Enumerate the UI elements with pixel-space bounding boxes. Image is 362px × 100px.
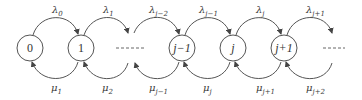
rate-label-mu-2: μ2 [102, 82, 114, 96]
state-node-0: 0 [17, 35, 43, 61]
backward-arc-1 [32, 62, 78, 79]
forward-arc-5 [287, 17, 332, 35]
backward-arc-5 [235, 62, 281, 79]
rate-label-mu-j+1: μj+1 [256, 82, 275, 96]
backward-arc-4 [184, 62, 230, 79]
backward-arc-6 [286, 62, 332, 79]
state-node-1: 1 [68, 35, 94, 61]
rate-label-mu-j: μj [203, 82, 213, 96]
backward-arc-3 [135, 62, 179, 79]
state-label: j−1 [171, 41, 190, 55]
rate-label-lambda-j: λj [255, 4, 265, 18]
rate-label-mu-1: μ1 [51, 82, 62, 96]
rate-label-lambda-j-1: λj−1 [198, 4, 218, 18]
rate-label-mu-j-1: μj−1 [149, 82, 168, 96]
forward-arc-3 [185, 18, 230, 35]
state-node-j: j [220, 35, 246, 61]
rate-label-lambda-j+1: λj+1 [305, 4, 325, 18]
state-node-j-plus-1: j+1 [271, 35, 297, 61]
backward-arc-2 [84, 62, 128, 79]
forward-arc-0 [33, 18, 78, 35]
forward-arc-4 [236, 18, 281, 35]
forward-arc-2 [134, 17, 179, 34]
rate-label-lambda-0: λ0 [51, 4, 63, 18]
rate-label-mu-j+2: μj+2 [306, 82, 326, 96]
state-node-j-minus-1: j−1 [169, 35, 195, 61]
state-label: 1 [78, 41, 84, 55]
rate-label-lambda-j-2: λj−2 [148, 4, 168, 18]
state-label: j+1 [273, 41, 292, 55]
birth-death-diagram: 0 1 j−1 j j+1 λ0 λ1 [0, 0, 362, 100]
forward-arc-1 [84, 17, 128, 35]
rate-label-lambda-1: λ1 [102, 4, 114, 18]
state-label: 0 [27, 41, 33, 55]
